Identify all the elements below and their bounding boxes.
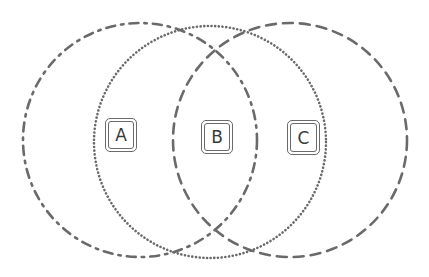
label-box-b: B [201,120,233,154]
label-box-c: C [287,120,320,155]
label-a-text: A [108,121,134,149]
label-c-text: C [290,123,317,152]
label-box-a: A [105,118,137,152]
label-b-text: B [204,123,230,151]
